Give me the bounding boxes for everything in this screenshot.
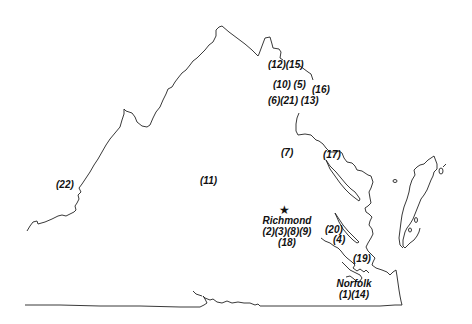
region-label-4: (4): [333, 234, 345, 245]
state-outline: [0, 0, 472, 324]
city-name: Norfolk: [333, 278, 375, 289]
city-codes-extra: (18): [255, 237, 319, 248]
region-label-16: (16): [312, 84, 330, 95]
city-codes: (2)(3)(8)(9): [255, 226, 319, 237]
region-label-11: (11): [200, 175, 217, 186]
region-label-6-21-13: (6)(21) (13): [268, 95, 319, 106]
region-label-7: (7): [281, 147, 293, 158]
region-label-10-5: (10) (5): [273, 79, 306, 90]
virginia-map: (12)(15) (10) (5) (16) (6)(21) (13) (7) …: [0, 0, 472, 324]
region-label-22: (22): [56, 179, 74, 190]
region-label-12-15: (12)(15): [268, 59, 304, 70]
city-codes: (1)(14): [333, 289, 375, 300]
city-richmond: Richmond (2)(3)(8)(9) (18): [255, 215, 319, 248]
city-norfolk: Norfolk (1)(14): [333, 278, 375, 300]
city-name: Richmond: [255, 215, 319, 226]
region-label-19: (19): [353, 253, 371, 264]
region-label-17: (17): [323, 149, 341, 160]
